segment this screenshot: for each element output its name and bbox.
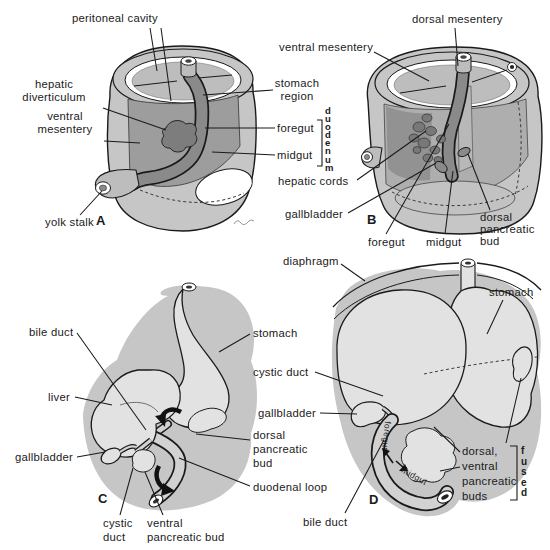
label-bile-duct-c: bile duct (29, 326, 73, 339)
label-cystic-duct-d: cystic duct (253, 366, 308, 379)
label-gallbladder-b: gallbladder (285, 208, 343, 221)
label-dorsal-ventral-pancreatic-buds: dorsal, ventral pancreatic buds (462, 444, 517, 504)
label-diaphragm: diaphragm (283, 255, 339, 268)
label-bile-duct-d: bile duct (303, 516, 347, 529)
artist-signature (234, 220, 254, 225)
panel-letter-a: A (96, 214, 106, 227)
label-hepatic-diverticulum: hepatic diverticulum (6, 78, 102, 104)
label-fused-vertical: f u s e d (521, 446, 527, 499)
label-foregut-a: foregut (277, 122, 314, 135)
label-yolk-stalk: yolk stalk (45, 216, 94, 229)
label-dorsal-mesentery: dorsal mesentery (412, 13, 503, 26)
embryology-figure: peritoneal cavity dorsal mesentery ventr… (0, 0, 550, 550)
panel-c-drawing (83, 283, 257, 510)
label-stomach-region: stomach region (270, 77, 324, 103)
label-hepatic-cords: hepatic cords (278, 175, 348, 188)
label-stomach-c: stomach (253, 327, 297, 340)
label-duodenum-vertical: d u o d e n u m (325, 107, 333, 172)
duodenum-bracket (317, 120, 322, 166)
panel-letter-d: D (369, 493, 379, 506)
panel-letter-c: C (98, 492, 108, 505)
label-midgut-a: midgut (277, 149, 312, 162)
label-stomach-d: stomach (489, 286, 533, 299)
ventral-pancreatic-bud-shape (132, 450, 155, 472)
panel-a-drawing (95, 46, 256, 231)
label-gallbladder-c: gallbladder (15, 451, 73, 464)
panel-b-drawing (362, 47, 542, 234)
label-ventral-mesentery-a: ventral mesentery (25, 110, 105, 136)
label-dorsal-pancreatic-bud-c: dorsal pancreatic bud (253, 429, 308, 470)
label-duodenal-loop: duodenal loop (253, 481, 327, 494)
label-ventral-pancreatic-bud: ventral pancreatic bud (147, 517, 225, 545)
label-cystic-duct-c: cystic duct (103, 517, 133, 545)
label-gallbladder-d: gallbladder (258, 407, 316, 420)
label-dorsal-pancreatic-bud-b: dorsal pancreatic bud (480, 211, 535, 247)
panel-letter-b: B (367, 213, 377, 226)
label-ventral-mesentery-b: ventral mesentery (279, 41, 373, 54)
label-foregut-b: foregut (368, 236, 405, 249)
label-peritoneal-cavity: peritoneal cavity (72, 12, 158, 25)
label-midgut-b: midgut (426, 236, 461, 249)
label-liver: liver (48, 391, 70, 404)
